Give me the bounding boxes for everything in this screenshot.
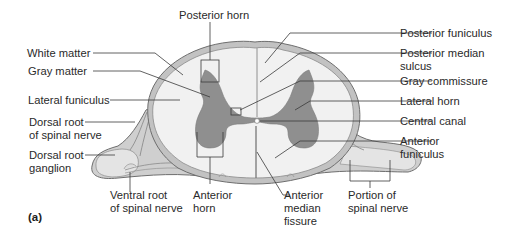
label-portion-1: Portion of xyxy=(348,189,397,201)
label-posterior-median-2: sulcus xyxy=(400,60,432,72)
label-dorsal-ganglion-2: ganglion xyxy=(29,162,71,174)
label-posterior-horn: Posterior horn xyxy=(179,9,249,21)
label-anterior-horn-1: Anterior xyxy=(193,189,232,201)
spinal-cord xyxy=(148,41,360,184)
label-posterior-median-1: Posterior median xyxy=(400,47,485,59)
spinal-cord-cross-section-diagram: Posterior horn White matter Gray matter … xyxy=(0,0,510,242)
central-canal-shape xyxy=(255,119,260,124)
label-ventral-root-1: Ventral root xyxy=(110,189,168,201)
label-anterior-horn-2: horn xyxy=(193,202,215,214)
label-anterior-funiculus-1: Anterior xyxy=(400,135,439,147)
label-dorsal-ganglion-1: Dorsal root xyxy=(29,149,85,161)
label-lateral-horn: Lateral horn xyxy=(400,95,460,107)
label-anterior-funiculus-2: funiculus xyxy=(400,148,445,160)
label-anterior-median-1: Anterior xyxy=(284,189,323,201)
label-central-canal: Central canal xyxy=(400,115,466,127)
label-posterior-funiculus: Posterior funiculus xyxy=(400,27,492,39)
label-portion-2: spinal nerve xyxy=(348,202,408,214)
label-lateral-funiculus: Lateral funiculus xyxy=(28,94,110,106)
label-dorsal-root-1: Dorsal root xyxy=(29,116,85,128)
label-anterior-median-2: median xyxy=(284,202,321,214)
label-ventral-root-2: of spinal nerve xyxy=(110,202,183,214)
label-dorsal-root-2: of spinal nerve xyxy=(29,129,102,141)
label-white-matter: White matter xyxy=(27,47,91,59)
label-gray-commissure: Gray commissure xyxy=(400,75,488,87)
label-anterior-median-3: fissure xyxy=(284,215,317,227)
panel-label: (a) xyxy=(28,211,42,223)
label-gray-matter: Gray matter xyxy=(28,65,87,77)
